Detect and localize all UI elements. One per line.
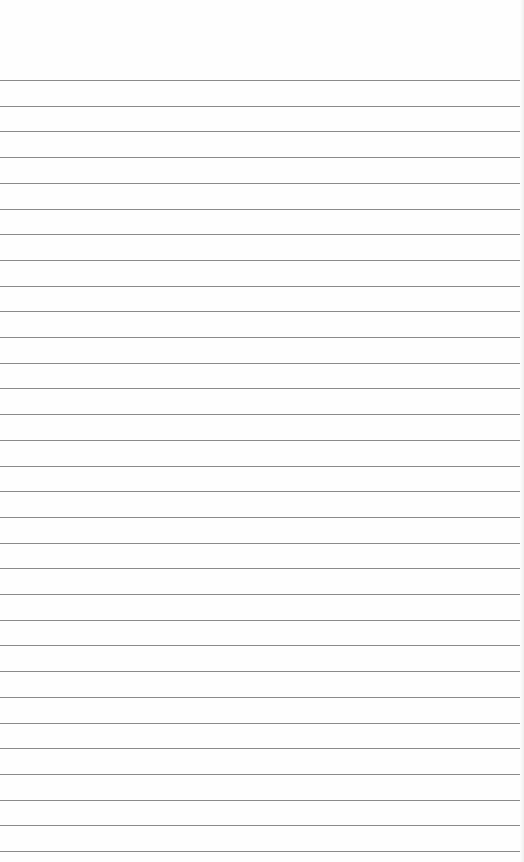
ruled-line [0,183,520,184]
ruled-line [0,594,520,595]
ruled-line [0,825,520,826]
ruled-line [0,697,520,698]
ruled-line [0,517,520,518]
ruled-line [0,286,520,287]
ruled-line [0,568,520,569]
ruled-line [0,157,520,158]
ruled-line [0,645,520,646]
ruled-line [0,723,520,724]
ruled-line [0,800,520,801]
ruled-line [0,774,520,775]
ruled-line [0,414,520,415]
ruled-line [0,234,520,235]
ruled-line [0,337,520,338]
ruled-line [0,748,520,749]
ruled-line [0,491,520,492]
ruled-line [0,131,520,132]
ruled-line [0,466,520,467]
ruled-line [0,851,520,852]
ruled-line [0,363,520,364]
ruled-line [0,440,520,441]
ruled-line [0,388,520,389]
ruled-line [0,671,520,672]
ruled-line [0,620,520,621]
ruled-line [0,311,520,312]
ruled-line [0,543,520,544]
ruled-line [0,80,520,81]
lined-paper [0,0,524,862]
ruled-line [0,106,520,107]
ruled-line [0,260,520,261]
ruled-line [0,209,520,210]
